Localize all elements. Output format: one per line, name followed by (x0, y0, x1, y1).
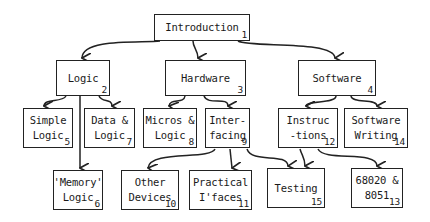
node-data-logic: Data &Logic7 (84, 108, 135, 148)
node-practical-ifaces: PracticalI'faces11 (189, 170, 252, 210)
node-number: 12 (324, 136, 335, 147)
node-number: 2 (101, 84, 107, 95)
node-label-line: I'faces (199, 190, 242, 205)
node-label-line: Writing (355, 128, 398, 143)
arrow-introduction-to-logic (82, 41, 160, 58)
node-label-line: Software (352, 113, 401, 128)
node-number: 1 (241, 29, 247, 40)
node-instructions: Instruc-tions12 (278, 108, 338, 148)
node-number: 14 (394, 136, 405, 147)
node-label-line: Logic (155, 128, 186, 143)
node-label-line: Software (313, 71, 362, 86)
node-label-line: Other (135, 175, 166, 190)
node-label-line: facing (209, 128, 246, 143)
node-number: 10 (165, 198, 176, 209)
node-label-line: Instruc (287, 113, 330, 128)
node-other-devices: OtherDevices10 (121, 170, 179, 210)
node-label-line: -tions (290, 128, 327, 143)
node-number: 7 (126, 136, 132, 147)
arrow-interfacing-to-other-devices (148, 149, 215, 168)
node-simple-logic: SimpleLogic5 (23, 108, 73, 148)
arrow-software-to-instructions (306, 96, 336, 106)
node-number: 11 (238, 198, 249, 209)
node-label-line: 8051 (365, 188, 390, 203)
node-label-line: Testing (275, 181, 318, 196)
node-label-line: 'Memory' (54, 175, 103, 190)
node-interfacing: Inter-facing9 (205, 108, 250, 148)
node-label-line: Logic (68, 71, 99, 86)
arrow-instructions-to-68020-8051 (318, 149, 377, 166)
arrow-introduction-to-software (238, 41, 335, 58)
node-testing: Testing15 (267, 168, 325, 208)
node-label-line: Inter- (209, 113, 246, 128)
node-introduction: Introduction1 (154, 14, 250, 41)
arrow-interfacing-to-testing (247, 149, 288, 166)
topic-tree-diagram: Introduction1Logic2Hardware3Software4Sim… (0, 0, 430, 222)
arrow-logic-to-data-logic (99, 96, 112, 106)
arrow-software-to-software-writing (351, 96, 377, 106)
node-micros-logic: Micros &Logic8 (143, 108, 197, 148)
node-hardware: Hardware3 (165, 60, 246, 96)
node-number: 13 (389, 196, 400, 207)
node-label-line: Simple (30, 113, 67, 128)
arrow-logic-to-simple-logic (44, 96, 66, 106)
node-label-line: Micros & (146, 113, 195, 128)
node-label-line: 68020 & (356, 173, 399, 188)
arrow-introduction-to-hardware (193, 41, 198, 58)
node-number: 6 (94, 198, 100, 209)
node-number: 5 (64, 136, 70, 147)
node-label-line: Hardware (181, 71, 230, 86)
arrow-instructions-to-testing (300, 149, 305, 166)
node-label-line: Practical (193, 175, 248, 190)
node-label-line: Logic (63, 190, 94, 205)
arrow-hardware-to-micros-logic (169, 96, 185, 106)
node-number: 4 (367, 84, 373, 95)
node-label-line: Logic (94, 128, 125, 143)
node-label-line: Data & (91, 113, 128, 128)
node-logic: Logic2 (56, 60, 110, 96)
node-software-writing: SoftwareWriting14 (344, 108, 408, 148)
arrow-interfacing-to-practical-ifaces (230, 149, 232, 168)
node-number: 9 (241, 136, 247, 147)
node-software: Software4 (298, 60, 376, 96)
node-label-line: Introduction (165, 20, 238, 35)
node-number: 15 (311, 196, 322, 207)
node-label-line: Logic (33, 128, 64, 143)
arrow-hardware-to-interfacing (204, 96, 228, 106)
node-number: 8 (188, 136, 194, 147)
node-memory-logic: 'Memory'Logic6 (53, 170, 103, 210)
node-68020-8051: 68020 &805113 (351, 168, 403, 208)
node-number: 3 (237, 84, 243, 95)
